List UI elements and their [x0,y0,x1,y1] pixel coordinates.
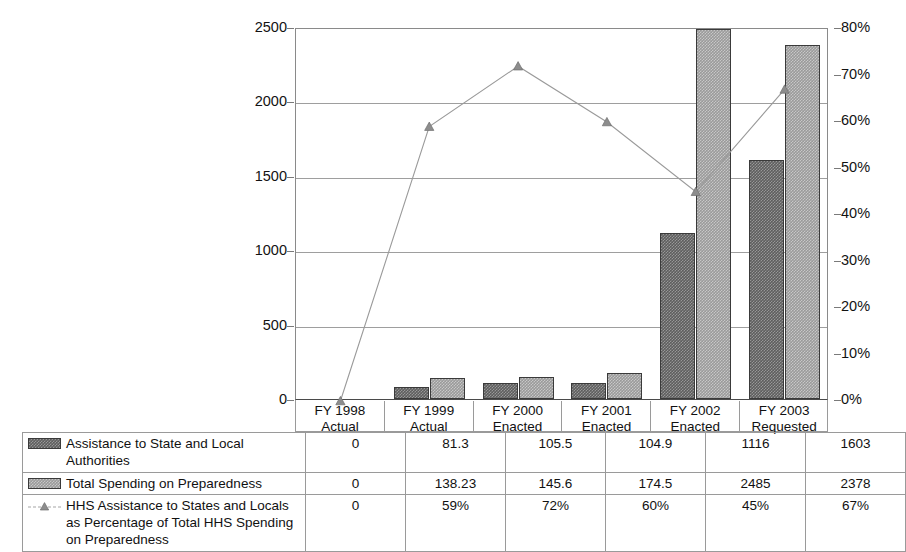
value-cell-r1-c1: 138.23 [406,472,506,494]
right-percent-axis: 0%10%20%30%40%50%60%70%80% [841,0,896,430]
chart-region: 05001000150020002500 0%10%20%30%40%50%60… [0,0,892,430]
left-axis-tick-mark [287,251,294,252]
value-cell-r1-c4: 2485 [706,472,806,494]
left-axis-tick-label: 0 [279,392,287,407]
bar-total-5 [785,45,820,399]
value-cell-r2-c1: 59% [406,494,506,551]
value-cell-r0-c3: 104.9 [606,433,706,473]
left-axis-tick-label: 1000 [255,243,287,258]
category-label-line: FY 1998 [296,403,384,419]
right-axis-tick-mark [834,261,841,262]
category-label-line: FY 2002 [651,403,739,419]
right-axis-tick-label: 20% [841,299,870,314]
gridline [296,327,827,328]
right-axis-tick-label: 80% [841,20,870,35]
left-axis-tick-label: 1500 [255,169,287,184]
category-label-5: FY 2003Requested [739,401,828,431]
table-row: HHS Assistance to States and Locals as P… [23,494,906,551]
category-label-line: FY 2003 [740,403,828,419]
table-row: Total Spending on Preparedness0138.23145… [23,472,906,494]
category-label-0: FY 1998Actual [295,401,384,431]
left-axis-tick-label: 2500 [255,20,287,35]
data-table: Assistance to State and Local Authoritie… [22,432,906,552]
category-axis-labels: FY 1998ActualFY 1999ActualFY 2000Enacted… [295,401,828,431]
bar-total-4 [696,29,731,399]
right-axis-tick-label: 50% [841,160,870,175]
value-cell-r1-c3: 174.5 [606,472,706,494]
right-axis-tick-mark [834,214,841,215]
right-axis-tick-mark [834,307,841,308]
left-axis-tick-mark [287,177,294,178]
right-axis-tick-mark [834,28,841,29]
bar-assistance-1 [394,387,429,399]
line-marker-2 [513,62,522,70]
left-axis-tick-mark [287,400,294,401]
left-axis-tick-mark [287,102,294,103]
bar-total-2 [519,377,554,399]
left-axis-tick-label: 2000 [255,94,287,109]
data-table-wrapper: Assistance to State and Local Authoritie… [22,432,830,552]
category-label-3: FY 2001Enacted [561,401,650,431]
bar-assistance-4 [660,233,695,399]
value-cell-r2-c5: 67% [806,494,906,551]
bar-assistance-2 [483,383,518,399]
series-label-cell: HHS Assistance to States and Locals as P… [23,494,306,551]
value-cell-r1-c0: 0 [306,472,406,494]
value-cell-r1-c5: 2378 [806,472,906,494]
right-axis-tick-mark [834,121,841,122]
left-value-axis: 05001000150020002500 [225,0,287,430]
bar-total-1 [430,378,465,399]
series-label-text: HHS Assistance to States and Locals as P… [66,497,300,549]
value-cell-r0-c0: 0 [306,433,406,473]
right-axis-tick-label: 40% [841,206,870,221]
series-label-text: Assistance to State and Local Authoritie… [66,435,300,470]
right-axis-tick-mark [834,75,841,76]
bar-assistance-3 [571,383,606,399]
legend-swatch-icon [28,478,61,489]
category-label-4: FY 2002Enacted [650,401,739,431]
series-label-text: Total Spending on Preparedness [66,475,300,492]
value-cell-r0-c2: 105.5 [506,433,606,473]
left-axis-tick-mark [287,28,294,29]
right-axis-tick-label: 0% [841,392,862,407]
category-label-line: FY 2000 [474,403,562,419]
value-cell-r2-c4: 45% [706,494,806,551]
series-label-cell: Assistance to State and Local Authoritie… [23,433,306,473]
category-label-2: FY 2000Enacted [473,401,562,431]
value-cell-r1-c2: 145.6 [506,472,606,494]
left-axis-tick-mark [287,326,294,327]
category-label-line: FY 2001 [562,403,650,419]
value-cell-r2-c0: 0 [306,494,406,551]
right-axis-tick-label: 30% [841,253,870,268]
right-axis-tick-label: 10% [841,346,870,361]
value-cell-r0-c5: 1603 [806,433,906,473]
value-cell-r0-c1: 81.3 [406,433,506,473]
right-axis-tick-mark [834,400,841,401]
line-marker-3 [602,117,611,125]
value-cell-r2-c2: 72% [506,494,606,551]
right-axis-tick-mark [834,354,841,355]
series-label-cell: Total Spending on Preparedness [23,472,306,494]
right-axis-tick-mark [834,168,841,169]
category-label-line: FY 1999 [385,403,473,419]
right-axis-tick-label: 70% [841,67,870,82]
legend-swatch-icon [28,438,61,449]
gridline [296,103,827,104]
right-axis-tick-label: 60% [841,113,870,128]
bar-total-3 [607,373,642,399]
bar-assistance-5 [749,160,784,399]
category-label-1: FY 1999Actual [384,401,473,431]
value-cell-r0-c4: 1116 [706,433,806,473]
value-cell-r2-c3: 60% [606,494,706,551]
line-marker-1 [425,122,434,130]
gridline [296,252,827,253]
gridline [296,178,827,179]
left-axis-tick-label: 500 [263,318,287,333]
legend-line-marker-icon [28,499,61,510]
table-row: Assistance to State and Local Authoritie… [23,433,906,473]
plot-area [295,28,828,400]
